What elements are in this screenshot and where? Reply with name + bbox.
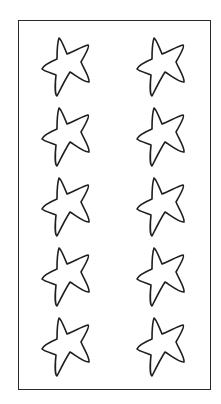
star-outline-icon <box>136 37 190 97</box>
star-outline-icon <box>41 107 95 167</box>
star-outline-icon <box>41 37 95 97</box>
star-outline-icon <box>136 107 190 167</box>
star-outline-icon <box>136 247 190 307</box>
star-outline-icon <box>136 177 190 237</box>
star-shape <box>41 107 95 167</box>
star-shape <box>41 177 95 237</box>
star-shape <box>41 37 95 97</box>
star-shape <box>136 107 190 167</box>
star-outline-icon <box>41 317 95 377</box>
star-shape <box>136 317 190 377</box>
star-shape <box>136 37 190 97</box>
star-outline-icon <box>41 247 95 307</box>
star-shape <box>41 247 95 307</box>
star-outline-icon <box>136 317 190 377</box>
star-shape <box>41 317 95 377</box>
star-shape <box>136 177 190 237</box>
star-shape <box>136 247 190 307</box>
star-outline-icon <box>41 177 95 237</box>
